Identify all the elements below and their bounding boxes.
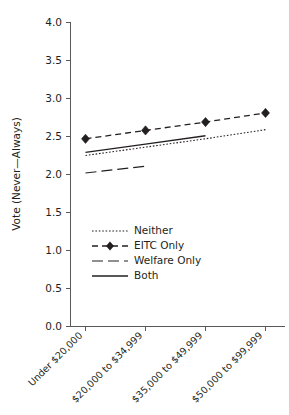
series-line [86,136,206,153]
data-point-marker-diamond-icon [142,126,150,135]
y-axis-tick-labels: 4.0 3.5 3.0 2.5 2.0 1.5 1.0 0.5 0.0 [45,16,62,332]
x-axis-tick-labels: Under $20,000 $20,000 to $34,999 $35,000… [26,330,265,405]
y-tick-label: 1.0 [45,244,62,256]
series-layer [82,108,270,173]
y-tick-label: 0.0 [45,320,62,332]
series-neither [86,130,266,156]
data-point-marker-diamond-icon [202,117,210,126]
legend-label-both: Both [134,269,158,281]
legend-item-eitc-only: EITC Only [92,239,184,251]
y-tick-label: 3.0 [45,92,62,104]
y-axis-title: Vote (Never—Always) [10,117,22,231]
legend-item-both: Both [92,269,158,281]
series-welfare-only [86,166,146,173]
line-chart: 4.0 3.5 3.0 2.5 2.0 1.5 1.0 0.5 0.0 Vote… [0,0,289,415]
series-line [86,166,146,173]
data-point-marker-diamond-icon [262,108,270,117]
y-axis-ticks [66,23,71,327]
x-axis-ticks [86,327,266,332]
series-line [86,113,266,139]
legend-label-neither: Neither [134,224,173,236]
legend-label-welfare-only: Welfare Only [134,254,201,266]
legend-label-eitc-only: EITC Only [134,239,184,251]
y-tick-label: 4.0 [45,16,62,28]
legend-marker-diamond-icon [106,242,113,250]
legend-item-welfare-only: Welfare Only [92,254,201,266]
chart-figure: 4.0 3.5 3.0 2.5 2.0 1.5 1.0 0.5 0.0 Vote… [0,0,289,415]
data-point-marker-diamond-icon [82,134,90,143]
y-tick-label: 0.5 [45,282,62,294]
series-eitc-only [82,108,270,143]
series-both [86,136,206,153]
y-tick-label: 1.5 [45,206,62,218]
y-tick-label: 2.0 [45,168,62,180]
y-tick-label: 2.5 [45,130,62,142]
series-line [86,130,266,156]
x-tick-label: Under $20,000 [26,330,85,389]
legend-item-neither: Neither [92,224,173,236]
chart-legend: Neither EITC Only Welfare Only Both [92,224,201,281]
y-tick-label: 3.5 [45,54,62,66]
